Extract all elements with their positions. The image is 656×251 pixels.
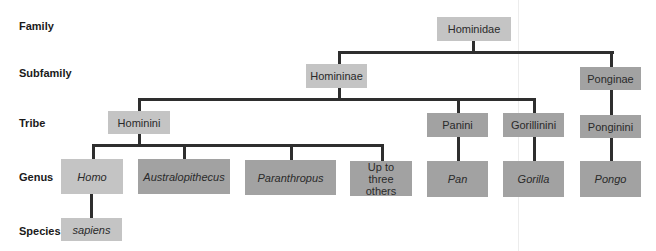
- rank-label-tribe: Tribe: [19, 116, 45, 130]
- connector: [290, 144, 293, 160]
- node-up-to-three-others: Up to three others: [350, 161, 412, 196]
- connector: [381, 144, 384, 161]
- node-ponginae: Ponginae: [580, 67, 641, 90]
- connector: [92, 144, 95, 159]
- node-pongo: Pongo: [580, 161, 641, 197]
- connector: [92, 144, 384, 147]
- node-hominini: Hominini: [108, 111, 170, 134]
- node-gorilla: Gorilla: [503, 161, 564, 197]
- node-sapiens: sapiens: [61, 218, 122, 241]
- connector: [610, 90, 613, 115]
- connector: [338, 51, 341, 65]
- rank-label-family: Family: [19, 19, 54, 33]
- connector: [138, 98, 536, 101]
- connector: [183, 144, 186, 159]
- rank-label-genus: Genus: [19, 170, 53, 184]
- node-paranthropus: Paranthropus: [245, 160, 336, 195]
- connector: [610, 138, 613, 161]
- node-homo: Homo: [61, 159, 123, 194]
- rank-label-species: Species: [19, 224, 61, 238]
- connector: [457, 137, 460, 161]
- node-pan: Pan: [427, 161, 488, 197]
- connector: [457, 98, 460, 113]
- connector: [338, 51, 614, 54]
- node-homininae: Homininae: [306, 64, 367, 88]
- node-panini: Panini: [427, 113, 488, 137]
- node-australopithecus: Australopithecus: [138, 159, 230, 194]
- connector: [90, 194, 93, 218]
- rank-label-subfamily: Subfamily: [19, 66, 72, 80]
- connector: [533, 137, 536, 161]
- node-hominidae: Hominidae: [437, 17, 511, 41]
- connector: [138, 98, 141, 112]
- connector: [533, 98, 536, 113]
- node-gorillinini: Gorillinini: [503, 113, 564, 137]
- node-ponginini: Ponginini: [580, 115, 641, 138]
- connector: [610, 51, 613, 68]
